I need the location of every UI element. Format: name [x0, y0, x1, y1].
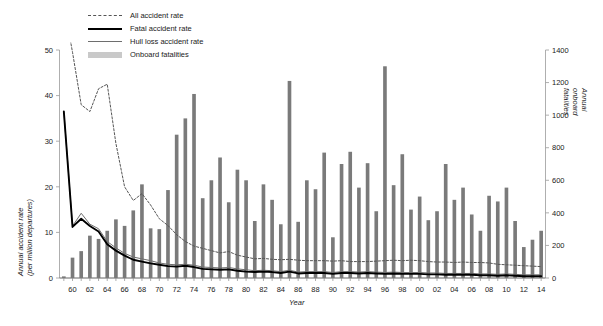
gray-bar-key	[88, 50, 122, 60]
bar	[62, 276, 66, 278]
x-axis-tick-label: 82	[259, 285, 267, 294]
x-axis-tick-label: 70	[155, 285, 163, 294]
y-axis-title-line2: (per million departures)	[25, 199, 34, 276]
bar	[444, 164, 448, 278]
bar-series-onboard-fatalities	[62, 66, 543, 278]
bar	[157, 229, 161, 278]
x-axis-tick-label: 92	[346, 285, 354, 294]
bar	[331, 237, 335, 278]
legend-item-onboard-fatalities: Onboard fatalities	[88, 48, 203, 61]
x-axis-tick-label: 72	[172, 285, 180, 294]
x-axis-tick-label: 12	[520, 285, 528, 294]
x-axis-tick-label: 88	[311, 285, 319, 294]
bar	[314, 189, 318, 278]
bar	[400, 154, 404, 278]
x-axis-tick-label: 96	[381, 285, 389, 294]
y-axis-tick-label: 0	[49, 274, 53, 283]
y-axis-tick-label: 10	[45, 228, 53, 237]
bar	[244, 180, 248, 278]
bar	[513, 221, 517, 278]
bar	[435, 211, 439, 278]
bar	[427, 220, 431, 278]
x-axis-tick-label: 76	[207, 285, 215, 294]
bar	[288, 81, 292, 278]
bar	[487, 196, 491, 278]
bar	[296, 222, 300, 278]
bar	[322, 153, 326, 278]
legend-label: Fatal accident rate	[130, 24, 192, 33]
bar	[479, 231, 483, 278]
x-axis-tick-label: 90	[329, 285, 337, 294]
line-series-hull-loss-accident-rate	[64, 112, 541, 275]
x-axis-tick-label: 04	[450, 285, 458, 294]
bar	[418, 197, 422, 278]
bar	[218, 157, 222, 278]
legend-label: Onboard fatalities	[130, 50, 189, 59]
y2-axis-title: Annual onboard fatalities	[562, 88, 589, 116]
y-axis-tick-label: 30	[45, 137, 53, 146]
bar	[461, 188, 465, 278]
x-axis-tick-label: 64	[103, 285, 111, 294]
x-axis-tick-label: 94	[363, 285, 371, 294]
x-axis-tick-label: 60	[68, 285, 76, 294]
x-axis-tick-label: 14	[537, 285, 545, 294]
bar	[88, 236, 92, 278]
bar	[105, 231, 109, 278]
bar	[149, 228, 153, 278]
y-axis-tick-label: 20	[45, 183, 53, 192]
bar	[383, 66, 387, 278]
x-axis-tick-label: 80	[242, 285, 250, 294]
x-axis-tick-label: 10	[502, 285, 510, 294]
x-axis-tick-label: 02	[433, 285, 441, 294]
x-axis-tick-label: 78	[225, 285, 233, 294]
accident-rate-chart: 0102030405002004006008001000120014006062…	[0, 0, 603, 326]
y2-axis-tick-label: 1200	[552, 78, 569, 87]
bar	[470, 214, 474, 278]
thick-black-line-key	[88, 24, 122, 34]
bar	[71, 258, 75, 278]
x-axis-tick-label: 08	[485, 285, 493, 294]
bar	[79, 251, 83, 278]
y2-axis-tick-label: 1400	[552, 46, 569, 55]
x-axis-tick-label: 06	[468, 285, 476, 294]
gray-line-key	[88, 37, 122, 47]
x-axis-title: Year	[289, 298, 304, 307]
x-axis-tick-label: 00	[415, 285, 423, 294]
y2-axis-tick-label: 600	[552, 176, 565, 185]
y2-axis-tick-label: 400	[552, 209, 565, 218]
y2-axis-tick-label: 0	[552, 274, 556, 283]
bar	[262, 184, 266, 278]
chart-legend: All accident rate Fatal accident rate Hu…	[88, 9, 203, 61]
legend-label: Hull loss accident rate	[130, 37, 203, 46]
y2-axis-tick-label: 200	[552, 241, 565, 250]
y2-axis-tick-label: 800	[552, 143, 565, 152]
bar	[539, 231, 543, 278]
line-series-fatal-accident-rate	[64, 112, 541, 277]
x-axis-tick-label: 98	[398, 285, 406, 294]
bar	[305, 180, 309, 278]
bar	[201, 198, 205, 278]
bar	[409, 210, 413, 278]
y-axis-tick-label: 50	[45, 46, 53, 55]
bar	[357, 188, 361, 278]
x-axis-tick-label: 62	[86, 285, 94, 294]
bar	[270, 200, 274, 278]
bar	[348, 152, 352, 278]
legend-item-all-accident-rate: All accident rate	[88, 9, 203, 22]
legend-item-hull-loss-accident-rate: Hull loss accident rate	[88, 35, 203, 48]
bar	[522, 247, 526, 278]
bar	[366, 163, 370, 278]
dashed-line-key	[88, 11, 122, 21]
bar	[374, 211, 378, 278]
bar	[131, 210, 135, 278]
x-axis-tick-label: 66	[120, 285, 128, 294]
y-axis-title-line1: Annual accident rate	[16, 208, 25, 276]
bar	[496, 201, 500, 278]
bar	[140, 184, 144, 278]
bar	[453, 200, 457, 278]
bar	[227, 202, 231, 278]
bar	[279, 224, 283, 278]
x-axis-tick-label: 74	[190, 285, 198, 294]
bar	[97, 239, 101, 278]
y-axis-tick-label: 40	[45, 91, 53, 100]
